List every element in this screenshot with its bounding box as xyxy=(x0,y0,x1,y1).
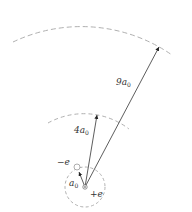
label-a0: a0 xyxy=(69,178,78,189)
label-9a0: 9a0 xyxy=(116,77,131,88)
nucleus-charge-label: +e xyxy=(90,189,103,199)
label-4a0: 4a0 xyxy=(73,125,89,136)
bohr-orbits-diagram: 9a0 4a0 a0 −e +e xyxy=(0,0,192,212)
orbit-9a0-arc xyxy=(13,27,172,55)
nucleus-core-icon xyxy=(84,186,86,188)
electron-icon xyxy=(74,164,80,170)
diagram-canvas: 9a0 4a0 a0 −e +e xyxy=(0,0,192,212)
electron-charge-label: −e xyxy=(57,157,70,167)
radius-9a0-arrow xyxy=(85,47,159,187)
